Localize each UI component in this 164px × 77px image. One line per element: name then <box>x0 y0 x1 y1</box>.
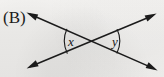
geometry-figure-panel: (B) x y <box>0 0 164 77</box>
panel-label: (B) <box>3 8 26 27</box>
angle-arc-x-icon <box>64 29 67 53</box>
line-up-right-shaft <box>31 16 153 67</box>
arrowhead-bottom-left-icon <box>27 60 39 68</box>
arrowhead-bottom-right-icon <box>146 62 158 70</box>
angle-label-y: y <box>112 35 118 48</box>
angle-label-x: x <box>68 35 74 48</box>
arrowhead-top-left-icon <box>26 13 38 21</box>
arrowhead-top-right-icon <box>145 14 157 22</box>
